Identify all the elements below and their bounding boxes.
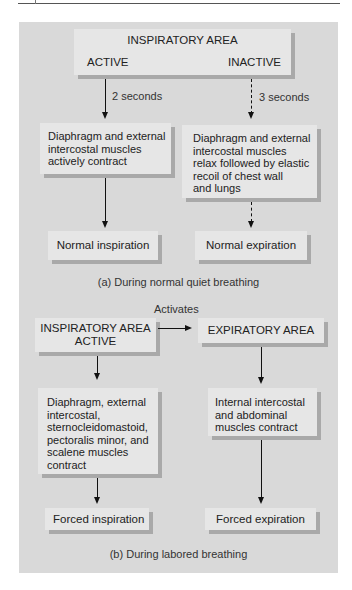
arrow-inactive-line xyxy=(251,79,252,114)
box-line: sternocleidomastoid, xyxy=(47,421,158,434)
inactive-label: INACTIVE xyxy=(228,56,281,69)
box-line: actively contract xyxy=(48,155,171,168)
box-line: scalene muscles xyxy=(47,446,158,459)
active-label: ACTIVE xyxy=(87,56,129,69)
two-seconds-label: 2 seconds xyxy=(112,90,162,102)
box-line: intercostal, xyxy=(47,409,158,422)
arrow-active-head xyxy=(102,112,108,119)
box-line: INSPIRATORY AREA xyxy=(35,322,156,335)
arrow-head xyxy=(258,497,264,504)
box-line: Internal intercostal xyxy=(215,396,317,409)
box-line: pectoralis minor, and xyxy=(47,434,158,447)
activates-arrow-head xyxy=(185,325,192,331)
box-line: Diaphragm, external xyxy=(47,396,158,409)
arrow-inactive-head xyxy=(248,112,254,119)
activates-arrow-line xyxy=(158,328,186,329)
arrow-to-normal-inspiration xyxy=(105,178,106,222)
box-line: intercostal muscles xyxy=(193,145,317,158)
box-line: Diaphragm and external xyxy=(193,132,317,145)
rule-tick xyxy=(35,0,36,4)
arrow-inspiratory-down xyxy=(97,356,98,374)
arrow-head xyxy=(248,221,254,228)
box-line: and lungs xyxy=(193,182,317,195)
arrow-to-normal-expiration xyxy=(251,202,252,222)
box-line: Diaphragm and external xyxy=(48,130,171,143)
relax-recoil-box: Diaphragm and external intercostal muscl… xyxy=(182,125,317,198)
arrow-to-forced-inspiration xyxy=(97,478,98,498)
arrow-active-line xyxy=(105,79,106,114)
top-rule xyxy=(18,3,340,4)
arrow-head xyxy=(258,377,264,384)
arrow-head xyxy=(94,497,100,504)
inspiratory-area-title: INSPIRATORY AREA xyxy=(74,34,291,47)
forced-expiration-box: Forced expiration xyxy=(205,508,316,530)
inspiratory-area-box: INSPIRATORY AREA ACTIVE INACTIVE xyxy=(74,29,291,75)
normal-inspiration-box: Normal inspiration xyxy=(48,231,158,260)
box-line: ACTIVE xyxy=(35,335,156,348)
caption-a: (a) During normal quiet breathing xyxy=(19,276,338,288)
caption-b: (b) During labored breathing xyxy=(19,548,338,560)
active-contract-box: Diaphragm and external intercostal muscl… xyxy=(40,123,171,174)
box-line: intercostal muscles xyxy=(48,143,171,156)
inspiratory-area-active-box: INSPIRATORY AREA ACTIVE xyxy=(35,318,156,352)
arrow-expiratory-down xyxy=(261,347,262,378)
forced-inspiration-box: Forced inspiration xyxy=(45,508,149,530)
arrow-head xyxy=(94,373,100,380)
box-line: and abdominal xyxy=(215,409,317,422)
box-line: recoil of chest wall xyxy=(193,170,317,183)
three-seconds-label: 3 seconds xyxy=(259,91,309,103)
forced-inspiration-muscles-box: Diaphragm, external intercostal, sternoc… xyxy=(38,388,158,474)
arrow-to-forced-expiration xyxy=(261,440,262,498)
arrow-head xyxy=(102,221,108,228)
box-line: relax followed by elastic xyxy=(193,157,317,170)
box-line: contract xyxy=(47,459,158,472)
activates-label: Activates xyxy=(154,303,199,315)
expiratory-area-box: EXPIRATORY AREA xyxy=(198,318,324,343)
forced-expiration-muscles-box: Internal intercostal and abdominal muscl… xyxy=(208,388,317,436)
normal-expiration-box: Normal expiration xyxy=(195,231,307,260)
box-line: muscles contract xyxy=(215,421,317,434)
diagram-panel xyxy=(19,22,338,573)
